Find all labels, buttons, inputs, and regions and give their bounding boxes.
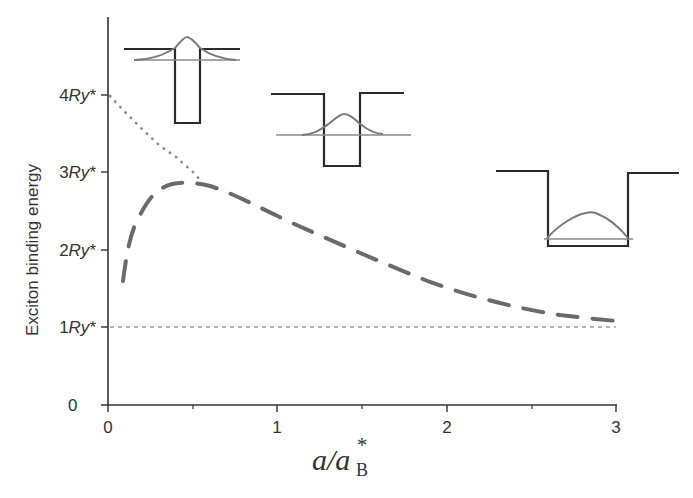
y-tick-label-4: 4Ry*: [59, 86, 96, 105]
series-finite-barrier-dashed: [123, 183, 617, 321]
series-ideal-2d-dotted: [110, 96, 202, 182]
y-tick-label-2: 2Ry*: [59, 241, 96, 260]
y-axis-title: Exciton binding energy: [23, 164, 42, 337]
chart: 0 1Ry* 2Ry* 3Ry* 4Ry* 0 1 2 3 Exciton bi…: [0, 0, 693, 498]
x-tick-label-2: 2: [442, 418, 451, 437]
y-tick-label-1: 1Ry*: [59, 318, 96, 337]
well-profile-wide: [496, 171, 679, 246]
y-tick-label-3: 3Ry*: [59, 163, 96, 182]
wavefunction-wide: [547, 212, 628, 238]
x-axis-title-main: a/a: [312, 443, 350, 476]
x-tick-label-1: 1: [272, 418, 281, 437]
x-axis-title-sub: B: [356, 460, 368, 480]
x-axis-title-sup: *: [357, 434, 367, 456]
inset-narrow-well: [124, 37, 240, 123]
wavefunction-medium: [302, 114, 383, 135]
y-tick-labels: 0 1Ry* 2Ry* 3Ry* 4Ry*: [59, 86, 96, 415]
x-tick-label-0: 0: [103, 418, 112, 437]
y-tick-label-0: 0: [68, 396, 77, 415]
inset-wide-well: [496, 171, 679, 246]
axes: [101, 17, 617, 412]
inset-medium-well: [271, 93, 411, 166]
x-tick-label-3: 3: [611, 418, 620, 437]
well-profile-medium: [271, 93, 404, 166]
x-axis-title: a/a * B: [312, 434, 368, 480]
